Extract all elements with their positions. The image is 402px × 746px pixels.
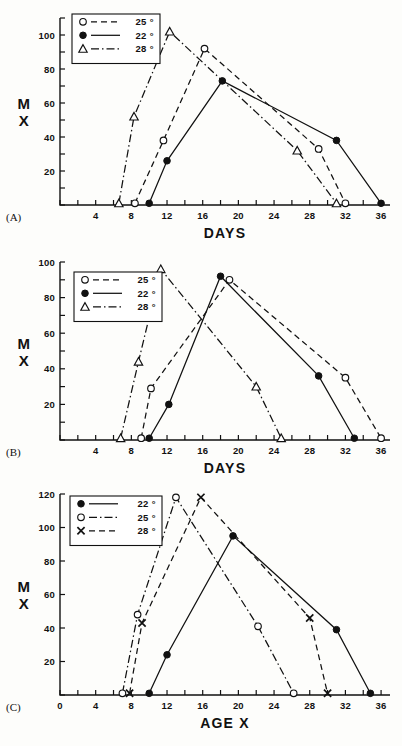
x-axis-tick-label: 12 (162, 445, 173, 456)
data-point-open-circle (78, 514, 85, 521)
x-axis-tick-label: 8 (129, 445, 134, 456)
data-point-open-circle (173, 494, 180, 501)
data-point-open-circle (255, 623, 262, 630)
x-axis-tick-label: 36 (376, 210, 387, 221)
y-axis-title: MX (18, 95, 31, 129)
x-axis-tick-label: 32 (340, 445, 351, 456)
x-axis-tick-label: 4 (93, 445, 99, 456)
x-axis-title: DAYS (204, 225, 246, 241)
chart-panel-a: 481216202428323620406080100DAYSMX(A)25 °… (0, 0, 402, 248)
x-axis-tick-label: 36 (376, 445, 387, 456)
data-point-filled-circle (146, 200, 153, 207)
y-axis-tick-label: 20 (44, 656, 55, 667)
chart-svg-b: 481216202428323620406080100DAYSMX(B)25 °… (0, 248, 402, 480)
x-axis-tick-label: 24 (269, 210, 280, 221)
y-axis-title: MX (18, 578, 31, 612)
series-line (149, 276, 354, 438)
data-point-filled-circle (315, 373, 322, 380)
y-axis-tick-label: 20 (44, 166, 55, 177)
x-axis-tick-label: 8 (129, 700, 134, 711)
data-point-open-circle (80, 19, 87, 26)
y-axis-tick-label: 120 (39, 489, 55, 500)
x-axis-tick-label: 12 (162, 210, 173, 221)
x-axis-tick-label: 4 (93, 700, 99, 711)
series-line (135, 49, 345, 204)
panel-tag: (A) (6, 211, 22, 224)
y-axis-title-letter: X (19, 595, 30, 612)
chart-panel-c: 0481216202428323620406080100120AGE XMX(C… (0, 480, 402, 746)
y-axis-tick-label: 80 (44, 556, 55, 567)
x-axis-tick-label: 28 (304, 445, 315, 456)
y-axis-title-letter: M (18, 95, 31, 112)
legend-label: 25 ° (137, 274, 156, 285)
data-point-open-triangle (157, 265, 165, 273)
panel-tag: (C) (6, 701, 21, 714)
data-point-open-triangle (130, 112, 138, 120)
y-axis-tick-label: 100 (39, 522, 55, 533)
legend: 22 °25 °28 ° (70, 496, 162, 546)
y-axis-tick-label: 100 (39, 257, 55, 268)
series-25° (132, 45, 349, 206)
x-axis-tick-label: 16 (197, 700, 208, 711)
y-axis-tick-label: 80 (44, 64, 55, 75)
data-point-cross-x (138, 619, 145, 626)
data-point-filled-circle (217, 273, 224, 280)
data-point-open-triangle (332, 199, 340, 207)
chart-svg-c: 0481216202428323620406080100120AGE XMX(C… (0, 480, 402, 746)
x-axis-tick-label: 32 (340, 210, 351, 221)
data-point-open-circle (201, 45, 208, 52)
data-point-filled-circle (82, 290, 89, 297)
data-point-open-circle (148, 385, 155, 392)
y-axis-tick-label: 60 (44, 98, 55, 109)
legend-label: 28 ° (137, 301, 156, 312)
y-axis-tick-label: 40 (44, 623, 55, 634)
data-point-open-triangle (134, 357, 142, 365)
data-point-filled-circle (367, 690, 374, 697)
data-point-open-circle (160, 137, 167, 144)
data-point-open-circle (119, 690, 126, 697)
series-line (149, 536, 370, 693)
x-axis-tick-label: 0 (57, 700, 62, 711)
chart-svg-a: 481216202428323620406080100DAYSMX(A)25 °… (0, 0, 402, 248)
y-axis-title-letter: M (18, 578, 31, 595)
y-axis-title-letter: X (19, 112, 30, 129)
data-point-filled-circle (333, 137, 340, 144)
y-axis-tick-label: 20 (44, 399, 55, 410)
x-axis-title: DAYS (204, 460, 246, 476)
legend-label: 22 ° (135, 30, 154, 41)
data-point-open-triangle (115, 199, 123, 207)
data-point-filled-circle (378, 200, 385, 207)
data-point-open-triangle (277, 434, 285, 442)
x-axis-tick-label: 28 (304, 700, 315, 711)
x-axis-tick-label: 4 (93, 210, 99, 221)
y-axis-title-letter: X (19, 352, 30, 369)
data-point-open-circle (134, 611, 141, 618)
x-axis-tick-label: 20 (233, 445, 244, 456)
data-point-filled-circle (166, 401, 173, 408)
x-axis-tick-label: 20 (233, 210, 244, 221)
x-axis-title: AGE X (200, 715, 250, 731)
data-point-open-circle (132, 200, 139, 207)
data-point-open-circle (342, 200, 349, 207)
data-point-filled-circle (146, 435, 153, 442)
x-axis-tick-label: 24 (269, 445, 280, 456)
y-axis-title: MX (18, 335, 31, 369)
data-point-filled-circle (78, 501, 85, 508)
y-axis-tick-label: 80 (44, 292, 55, 303)
data-point-open-circle (290, 690, 297, 697)
x-axis-tick-label: 36 (376, 700, 387, 711)
x-axis-tick-label: 28 (304, 210, 315, 221)
data-point-open-circle (342, 374, 349, 381)
x-axis-tick-label: 32 (340, 700, 351, 711)
legend-label: 28 ° (137, 525, 156, 536)
y-axis-tick-label: 40 (44, 363, 55, 374)
panel-tag: (B) (6, 446, 21, 459)
x-axis-tick-label: 24 (269, 700, 280, 711)
data-point-open-triangle (166, 27, 174, 35)
figure-container: 481216202428323620406080100DAYSMX(A)25 °… (0, 0, 402, 746)
legend: 25 °22 °28 ° (72, 14, 160, 64)
data-point-filled-circle (146, 690, 153, 697)
data-point-cross-x (197, 494, 204, 501)
x-axis-tick-label: 20 (233, 700, 244, 711)
y-axis-title-letter: M (18, 335, 31, 352)
